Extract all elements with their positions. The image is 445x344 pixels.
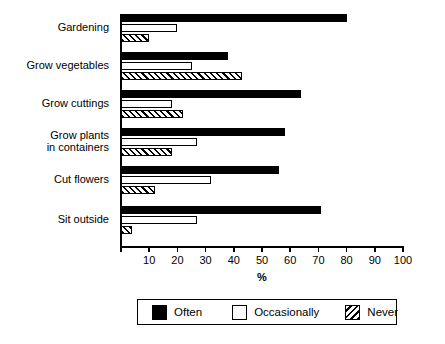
legend-label: Never — [367, 306, 398, 318]
legend-label: Occasionally — [254, 306, 319, 318]
bar-occasionally-5 — [121, 216, 197, 224]
bar-occasionally-0 — [121, 24, 177, 32]
x-tick-20 — [177, 247, 179, 252]
bar-never-1 — [121, 72, 242, 80]
x-tick-30 — [205, 247, 207, 252]
x-tick-label-70: 70 — [312, 254, 324, 267]
category-label-2: Grow cuttings — [42, 97, 109, 109]
category-label-3: Grow plantsin containers — [37, 129, 109, 153]
x-tick-60 — [289, 247, 291, 252]
x-tick-label-50: 50 — [256, 254, 268, 267]
bar-often-4 — [121, 166, 279, 174]
empty-white-swatch — [232, 305, 247, 320]
x-tick-50 — [261, 247, 263, 252]
category-label-line1: Gardening — [58, 21, 109, 33]
plot-area: 102030405060708090100 % — [121, 14, 403, 246]
x-tick-0 — [120, 247, 122, 252]
x-tick-90 — [374, 247, 376, 252]
x-tick-label-100: 100 — [394, 254, 412, 267]
x-tick-label-20: 20 — [171, 254, 183, 267]
x-tick-40 — [233, 247, 235, 252]
category-label-5: Sit outside — [58, 213, 109, 225]
bar-occasionally-1 — [121, 62, 192, 70]
category-label-line1: Sit outside — [58, 213, 109, 225]
x-tick-10 — [148, 247, 150, 252]
bar-often-0 — [121, 14, 347, 22]
x-tick-80 — [346, 247, 348, 252]
solid-black-swatch — [152, 305, 167, 320]
bar-occasionally-3 — [121, 138, 197, 146]
bar-never-0 — [121, 34, 149, 42]
category-label-line1: Cut flowers — [54, 173, 109, 185]
category-label-line2: in containers — [37, 141, 109, 153]
category-label-line1: Grow cuttings — [42, 97, 109, 109]
x-tick-70 — [318, 247, 320, 252]
bar-never-5 — [121, 226, 132, 234]
x-tick-label-60: 60 — [284, 254, 296, 267]
category-label-line1: Grow plants — [50, 129, 109, 141]
x-tick-100 — [402, 247, 404, 252]
category-label-line1: Grow vegetables — [26, 59, 109, 71]
x-tick-label-10: 10 — [143, 254, 155, 267]
bar-chart: GardeningGrow vegetablesGrow cuttingsGro… — [0, 0, 445, 344]
category-label-4: Cut flowers — [54, 173, 109, 185]
bar-often-3 — [121, 128, 285, 136]
bar-occasionally-4 — [121, 176, 211, 184]
x-tick-label-80: 80 — [340, 254, 352, 267]
bar-never-2 — [121, 110, 183, 118]
bar-occasionally-2 — [121, 100, 172, 108]
x-tick-label-40: 40 — [228, 254, 240, 267]
bar-often-2 — [121, 90, 301, 98]
bar-often-1 — [121, 52, 228, 60]
bar-never-3 — [121, 148, 172, 156]
bar-often-5 — [121, 206, 321, 214]
x-axis-title: % — [257, 271, 267, 283]
category-label-0: Gardening — [58, 21, 109, 33]
legend-label: Often — [174, 306, 202, 318]
legend-item-never[interactable]: Never — [345, 305, 398, 320]
x-tick-label-90: 90 — [369, 254, 381, 267]
x-tick-label-30: 30 — [199, 254, 211, 267]
legend-item-occasionally[interactable]: Occasionally — [232, 305, 319, 320]
chart-legend: OftenOccasionallyNever — [137, 299, 397, 325]
hatched-swatch — [345, 305, 360, 320]
category-axis-labels: GardeningGrow vegetablesGrow cuttingsGro… — [0, 14, 115, 246]
bar-never-4 — [121, 186, 155, 194]
legend-item-often[interactable]: Often — [152, 305, 202, 320]
category-label-1: Grow vegetables — [26, 59, 109, 71]
